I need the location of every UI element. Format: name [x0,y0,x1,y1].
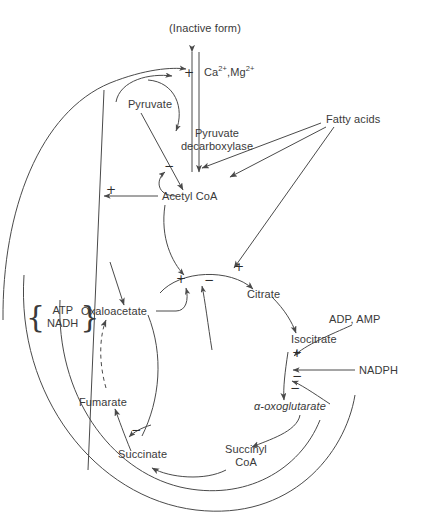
succinylcoa-to-succinate-arrow [152,468,226,477]
succinate-dh-minus-sign: − [131,425,141,435]
magnesium-charge: 2+ [246,64,255,73]
calcium-charge: 2+ [218,64,227,73]
atp-nadh-down-arrow [110,262,124,305]
magnesium-symbol: Mg [230,66,245,78]
isocitrate-dh-minus-sign-1: − [292,371,302,381]
atp-label: ATP [47,304,78,317]
pdh-inhibition-sign: − [164,161,174,171]
energy-feedback-vertical-line [88,90,104,470]
citrate-synthase-inhibitor-line [202,286,212,350]
citrate-synthase-minus-sign: − [204,275,214,285]
fatty-acids-label: Fatty acids [326,113,380,126]
ca-mg-label: Ca2+,Mg2+ [204,63,254,78]
pyruvate-decarboxylase-label: Pyruvate decarboxylase [181,127,253,152]
left-brace: { [26,307,45,327]
isocitrate-to-oxoglutarate-arrow [284,352,288,400]
citrate-synthase-fattyacid-plus-sign: + [234,262,244,272]
pyruvate-to-acetylcoa-arrow [141,113,183,190]
inactive-form-label: (Inactive form) [169,22,241,35]
acetylcoa-activation-sign: + [106,185,116,195]
succinyl-coa-line-1: Succinyl [225,443,267,456]
isocitrate-label: Isocitrate [291,333,337,346]
calcium-symbol: Ca [204,66,218,78]
nadh-label: NADH [47,317,78,330]
right-brace: } [80,307,99,327]
pathway-arrows-layer [0,0,421,527]
atp-nadh-text: ATP NADH [45,304,80,329]
acetyl-coa-label: Acetyl CoA [162,190,217,203]
atp-nadh-group: { ATP NADH } [26,304,99,329]
succinyl-coa-line-2: CoA [225,456,267,469]
oxaloacetate-connector [156,288,187,311]
fumarate-to-oxaloacetate-dashed-arrow [101,320,106,388]
metabolic-pathway-diagram: (Inactive form) Ca2+,Mg2+ Pyruvate Pyruv… [0,0,421,527]
citrate-to-isocitrate-arrow [272,297,296,333]
pdh-activation-sign: + [184,68,194,78]
succinate-label: Succinate [118,448,167,461]
inner-cycle-left-curve [142,315,158,436]
alpha-oxoglutarate-label: α-oxoglutarate [254,400,326,413]
acetylcoa-to-citrate-synthase [164,205,184,275]
nadph-label: NADPH [359,364,398,377]
pdh-line-2: decarboxylase [181,140,253,153]
adp-amp-label: ADP, AMP [329,313,380,326]
pdh-line-1: Pyruvate [181,127,253,140]
succinyl-coa-label: Succinyl CoA [225,443,267,468]
citrate-synthase-plus-sign: + [176,274,186,284]
fumarate-label: Fumarate [79,396,127,409]
citrate-label: Citrate [247,288,280,301]
succinate-to-fumarate-arrow [115,409,131,451]
pyruvate-label: Pyruvate [128,98,172,111]
isocitrate-dh-minus-sign-2: − [290,383,300,393]
isocitrate-dh-plus-sign: + [292,348,302,358]
